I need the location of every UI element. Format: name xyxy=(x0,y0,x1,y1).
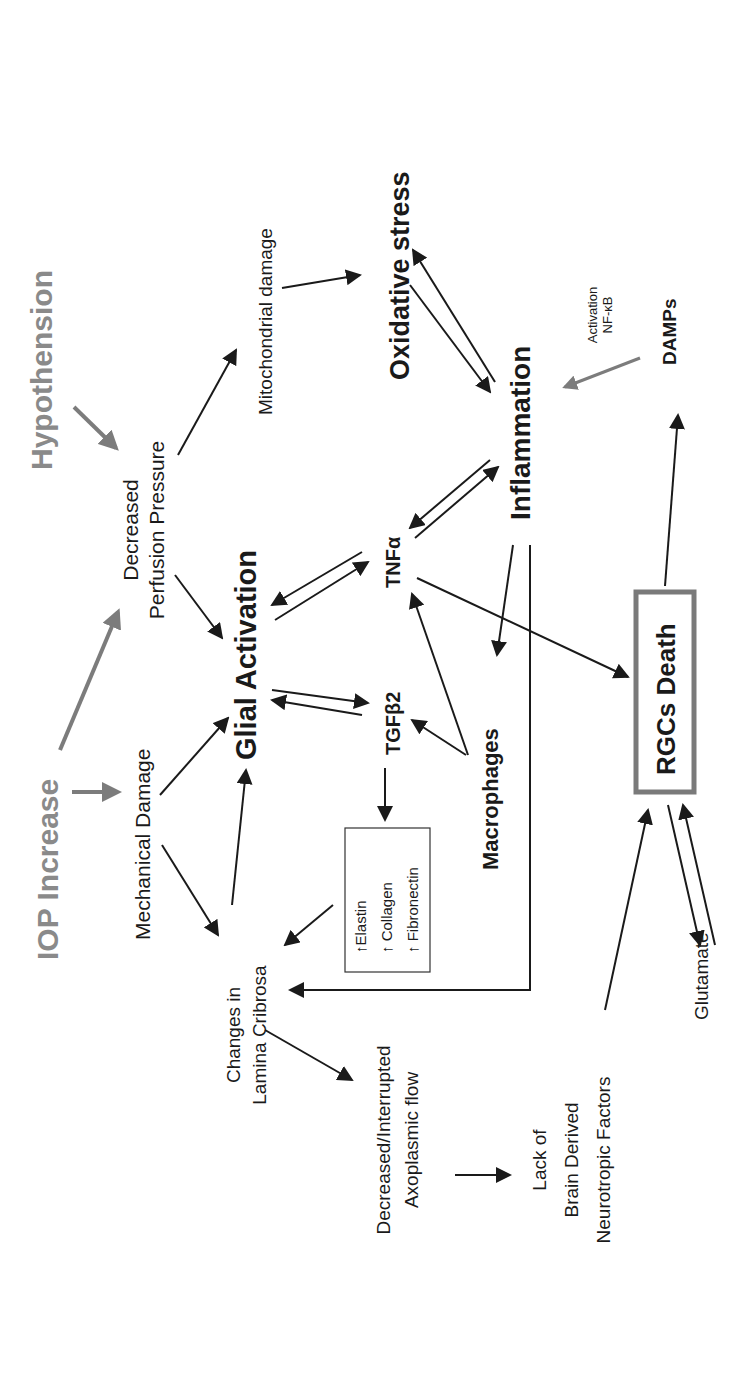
bdnf-label-2: Brain Derived xyxy=(561,1102,582,1217)
arrow-inflammation-to-oxidative xyxy=(413,250,495,382)
arrow-mechanical-to-glial xyxy=(160,718,228,795)
arrow-mitochondrial-to-oxidative xyxy=(282,275,360,288)
ecm-elastin: ↑Elastin xyxy=(352,900,369,953)
decreased-perfusion-label-2: Perfusion Pressure xyxy=(145,441,168,620)
arrow-rgcs-to-glutamate xyxy=(668,805,700,945)
axoplasmic-label-2: Axoplasmic flow xyxy=(401,1072,422,1208)
damps-label: DAMPs xyxy=(659,298,680,365)
arrow-bdnf-to-rgcs xyxy=(605,810,648,1010)
arrow-iop-to-perfusion xyxy=(60,612,118,750)
arrow-mechanical-to-lamina xyxy=(162,845,218,935)
arrow-inflammation-to-tnf xyxy=(410,460,490,528)
glutamate-label: Glutamate xyxy=(691,932,712,1020)
arrow-tnf-to-glial xyxy=(272,552,362,605)
arrow-damps-to-inflammation xyxy=(565,358,640,387)
decreased-perfusion-label-1: Decreased xyxy=(119,479,142,581)
arrow-ecm-to-lamina xyxy=(285,905,333,945)
changes-lamina-label-2: Lamina Cribrosa xyxy=(249,965,270,1105)
ecm-collagen: ↑ Collagen xyxy=(378,882,395,953)
arrow-tnf-to-inflammation xyxy=(415,467,498,538)
arrow-glutamate-to-rgcs xyxy=(683,805,715,945)
arrow-macrophages-to-tnf xyxy=(412,594,468,755)
rgcs-death-label: RGCs Death xyxy=(651,623,681,775)
oxidative-stress-label: Oxidative stress xyxy=(385,171,415,380)
mitochondrial-damage-label: Mitochondrial damage xyxy=(255,228,276,415)
inflammation-label: Inflammation xyxy=(505,346,536,520)
mechanical-damage-label: Mechanical Damage xyxy=(131,749,154,940)
nfkb-label: NF-κB xyxy=(600,297,615,334)
arrow-tnf-to-rgcs xyxy=(417,578,628,677)
tgf-beta2-label: TGFβ2 xyxy=(382,692,404,755)
arrow-lamina-to-glial xyxy=(232,770,246,905)
changes-lamina-label-1: Changes in xyxy=(223,987,244,1083)
axoplasmic-label-1: Decreased/Interrupted xyxy=(373,1045,394,1234)
bdnf-label-1: Lack of xyxy=(529,1129,550,1191)
arrow-oxidative-to-inflammation xyxy=(410,285,490,392)
arrow-glial-to-tnf xyxy=(275,562,368,620)
arrow-glial-to-tgf xyxy=(272,690,368,703)
arrow-inflammation-to-macrophages xyxy=(497,545,513,655)
pathophysiology-diagram: IOP Increase Hypothension Mechanical Dam… xyxy=(0,0,734,1385)
iop-increase-label: IOP Increase xyxy=(31,779,64,960)
hypothension-label: Hypothension xyxy=(25,270,58,470)
activation-label: Activation xyxy=(585,287,600,343)
tnf-alpha-label: TNFα xyxy=(382,536,404,588)
arrow-perfusion-to-mitochondrial xyxy=(178,350,236,455)
ecm-fibronectin: ↑ Fibronectin xyxy=(404,867,421,953)
arrow-perfusion-to-glial xyxy=(175,575,222,638)
arrow-tgf-to-glial xyxy=(272,700,362,715)
arrow-rgcs-to-damps xyxy=(665,415,678,586)
glial-activation-label: Glial Activation xyxy=(230,550,262,760)
arrow-lamina-to-axoplasmic xyxy=(265,1030,352,1080)
arrow-hypothension-to-perfusion xyxy=(74,407,116,448)
bdnf-label-3: Neurotropic Factors xyxy=(593,1077,614,1244)
macrophages-label: Macrophages xyxy=(478,728,503,870)
